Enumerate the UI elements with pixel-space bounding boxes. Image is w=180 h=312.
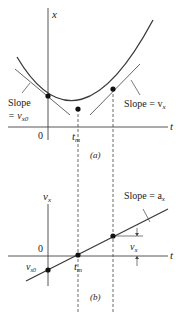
arrow-down-icon: [135, 233, 139, 236]
caption-a: (a): [90, 150, 101, 160]
tm-label-a: tm: [72, 130, 80, 144]
point-vx0: [45, 267, 50, 272]
right-slope-label: Slope = vx: [124, 98, 166, 111]
y-axis-label-a: x: [51, 8, 57, 20]
t-axis-label-b: t: [170, 249, 174, 261]
y-axis-label-b: vx: [43, 190, 52, 204]
origin-label-b: 0: [38, 243, 43, 254]
panel-b: vx t 0 tm vx0 Slope = ax vx (b): [8, 190, 174, 302]
left-slope-pointer: [22, 83, 30, 93]
point-tm: [75, 252, 80, 257]
left-slope-label: Slope: [8, 97, 31, 108]
tangent-left: [15, 69, 70, 115]
point-x: [110, 86, 115, 91]
point-vx: [110, 233, 115, 238]
t-axis-label-a: t: [170, 120, 174, 132]
tm-label-b: tm: [74, 260, 82, 274]
kinematics-diagram: x t 0 tm Slope = vx0 Slope = vx (a) vx t…: [0, 0, 180, 312]
point-min: [75, 106, 80, 111]
vx-label-b: vx: [130, 241, 138, 254]
origin-label-a: 0: [38, 130, 43, 141]
vx0-label: vx0: [26, 261, 36, 273]
position-curve: [17, 20, 153, 101]
right-slope-pointer: [131, 80, 140, 95]
slope-label-b: Slope = ax: [124, 190, 166, 203]
point-x0: [45, 93, 50, 98]
left-slope-value: = vx0: [8, 110, 29, 123]
caption-b: (b): [90, 292, 101, 302]
